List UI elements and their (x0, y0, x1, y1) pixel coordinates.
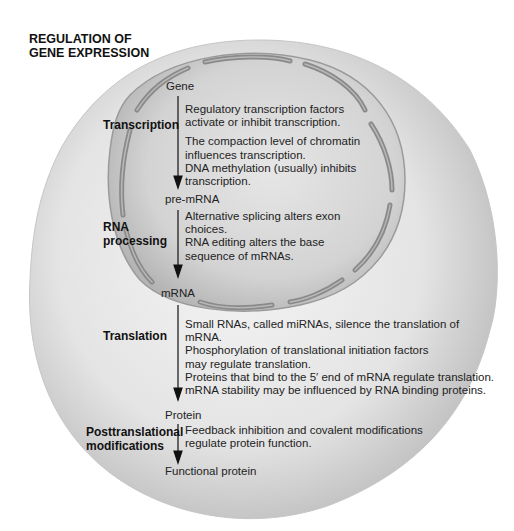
node-pre-mrna: pre-mRNA (165, 193, 219, 206)
stage-label-line: RNA (103, 220, 167, 234)
rna-processing-descriptions: Alternative splicing alters exon choices… (185, 210, 340, 263)
stage-label-line: processing (103, 234, 167, 248)
description-line: activate or inhibit transcription. (185, 116, 360, 129)
node-protein: Protein (165, 409, 201, 422)
description-line: RNA editing alters the base (185, 236, 340, 249)
description-line: sequence of mRNAs. (185, 250, 340, 263)
description-line: regulate protein function. (185, 437, 423, 450)
description-line: Feedback inhibition and covalent modific… (185, 424, 423, 437)
description-line: influences transcription. (185, 149, 360, 162)
description-line: transcription. (185, 175, 360, 188)
title-line-2: GENE EXPRESSION (29, 46, 149, 60)
description-line: Alternative splicing alters exon (185, 210, 340, 223)
description-line: mRNA. (185, 331, 494, 344)
description-line: mRNA stability may be influenced by RNA … (185, 384, 494, 397)
description-line: The compaction level of chromatin (185, 135, 360, 148)
cell-illustration (0, 0, 514, 531)
transcription-descriptions: Regulatory transcription factors activat… (185, 103, 360, 188)
description-line: Phosphorylation of translational initiat… (185, 344, 494, 357)
description-line: choices. (185, 223, 340, 236)
stage-label-line: modifications (86, 439, 183, 453)
node-functional-protein: Functional protein (165, 465, 256, 478)
stage-label-transcription: Transcription (103, 118, 179, 132)
description-line: DNA methylation (usually) inhibits (185, 162, 360, 175)
stage-label-posttranslational: Posttranslational modifications (86, 425, 183, 453)
stage-label-translation: Translation (103, 329, 167, 343)
stage-label-line: Posttranslational (86, 425, 183, 439)
diagram-title: REGULATION OF GENE EXPRESSION (29, 32, 149, 60)
node-mrna: mRNA (161, 287, 195, 300)
description-line: Small RNAs, called miRNAs, silence the t… (185, 318, 494, 331)
description-line: Regulatory transcription factors (185, 103, 360, 116)
posttranslational-descriptions: Feedback inhibition and covalent modific… (185, 424, 423, 450)
title-line-1: REGULATION OF (29, 32, 149, 46)
translation-descriptions: Small RNAs, called miRNAs, silence the t… (185, 318, 494, 397)
gene-expression-diagram: REGULATION OF GENE EXPRESSION Gene pre-m… (0, 0, 514, 531)
stage-label-rna-processing: RNA processing (103, 220, 167, 248)
node-gene: Gene (166, 80, 194, 93)
description-line: Proteins that bind to the 5′ end of mRNA… (185, 371, 494, 384)
description-line: may regulate translation. (185, 358, 494, 371)
